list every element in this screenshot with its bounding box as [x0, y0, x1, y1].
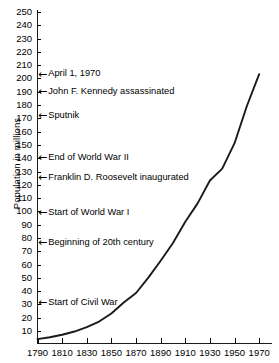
chart-annotation-label: End of World War II — [48, 153, 129, 162]
chart-annotation-label: Sputnik — [48, 111, 79, 120]
chart-annotation: ←Sputnik — [38, 111, 79, 120]
chart-annotation: ←John F. Kennedy assassinated — [38, 87, 174, 96]
left-arrow-icon: ← — [38, 238, 47, 247]
chart-annotation-label: Start of Civil War — [48, 298, 117, 307]
chart-annotation-label: John F. Kennedy assassinated — [48, 87, 174, 96]
chart-annotation: ←April 1, 1970 — [38, 69, 100, 78]
population-line-chart: Population in millions 10203040506070809… — [0, 0, 279, 363]
chart-annotation: ←Franklin D. Roosevelt inaugurated — [38, 173, 189, 182]
left-arrow-icon: ← — [38, 111, 47, 120]
chart-annotation-label: Start of World War I — [48, 208, 129, 217]
left-arrow-icon: ← — [38, 70, 47, 79]
chart-annotation: ←End of World War II — [38, 153, 129, 162]
chart-annotation: ←Start of World War I — [38, 208, 129, 217]
chart-annotation-label: Franklin D. Roosevelt inaugurated — [48, 173, 189, 182]
chart-annotation-label: April 1, 1970 — [48, 69, 100, 78]
chart-annotation: ←Beginning of 20th century — [38, 238, 154, 247]
left-arrow-icon: ← — [38, 298, 47, 307]
left-arrow-icon: ← — [38, 87, 47, 96]
chart-annotation: ←Start of Civil War — [38, 298, 118, 307]
left-arrow-icon: ← — [38, 173, 47, 182]
chart-annotation-label: Beginning of 20th century — [48, 238, 153, 247]
left-arrow-icon: ← — [38, 208, 47, 217]
left-arrow-icon: ← — [38, 153, 47, 162]
